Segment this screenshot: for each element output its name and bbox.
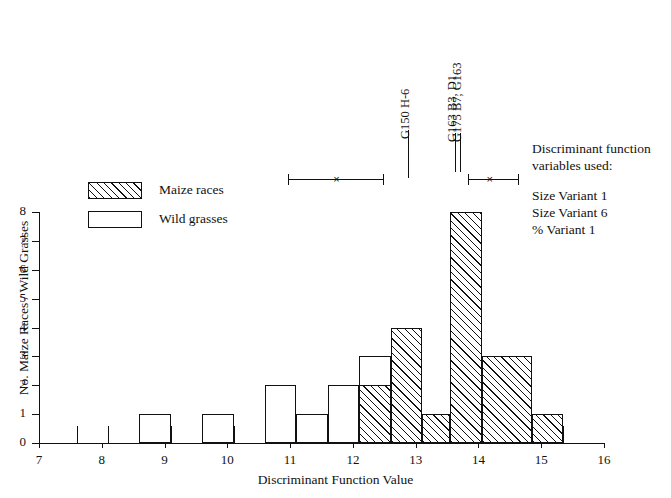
x-axis-line <box>39 443 604 444</box>
histogram-bar <box>482 356 532 443</box>
x-axis-tick <box>478 443 479 448</box>
error-bar-cap <box>518 174 519 185</box>
x-minor-tick <box>532 426 533 443</box>
note-variable-3: % Variant 1 <box>532 221 651 238</box>
legend-swatch-maize-icon <box>88 182 142 199</box>
x-axis-tick <box>416 443 417 448</box>
x-axis-tick-label: 9 <box>145 452 185 468</box>
x-minor-tick <box>171 426 172 443</box>
histogram-bar <box>422 414 450 443</box>
x-minor-tick <box>108 426 109 443</box>
error-bar-cap <box>288 174 289 185</box>
legend-item-wild: Wild grasses <box>88 209 228 229</box>
x-minor-tick <box>77 426 78 443</box>
x-minor-tick <box>328 426 329 443</box>
y-axis-tick <box>32 356 39 357</box>
x-axis-tick-label: 12 <box>333 452 373 468</box>
note-heading-line2: variables used: <box>532 157 651 174</box>
note-spacer <box>532 174 651 187</box>
y-axis-tick <box>32 212 39 213</box>
x-axis-tick-label: 7 <box>19 452 59 468</box>
y-axis-tick <box>32 270 39 271</box>
y-axis-tick <box>32 299 39 300</box>
x-axis-tick <box>227 443 228 448</box>
x-axis-tick-label: 11 <box>270 452 310 468</box>
note-heading-line1: Discriminant function <box>532 140 651 157</box>
y-axis-tick <box>32 241 39 242</box>
histogram-bar <box>265 385 296 443</box>
legend-swatch-wild-icon <box>88 211 142 228</box>
legend: Maize races Wild grasses <box>88 180 228 238</box>
x-axis-tick-label: 15 <box>521 452 561 468</box>
error-bar-mean-marker: × <box>333 174 339 185</box>
x-minor-tick <box>450 426 451 443</box>
x-axis-title: Discriminant Function Value <box>0 472 671 488</box>
x-minor-tick <box>422 426 423 443</box>
y-axis-tick-label: 0 <box>10 434 26 450</box>
legend-label-maize: Maize races <box>159 182 224 198</box>
x-axis-tick-label: 8 <box>82 452 122 468</box>
error-bar-cap <box>468 174 469 185</box>
x-axis-tick <box>353 443 354 448</box>
y-axis-tick <box>32 385 39 386</box>
y-axis-line <box>39 212 40 444</box>
plot-area: 78910111213141516012345678 G150 H-6G163 … <box>0 0 671 498</box>
marker-label: G175 B7, G163 <box>450 62 465 142</box>
histogram-bars <box>0 0 671 498</box>
histogram-bar <box>328 385 359 443</box>
y-axis-tick <box>32 443 39 444</box>
chart-root: 78910111213141516012345678 G150 H-6G163 … <box>0 0 671 498</box>
histogram-bar <box>296 414 327 443</box>
x-axis-tick-label: 16 <box>584 452 624 468</box>
x-minor-tick <box>296 426 297 443</box>
histogram-bar <box>202 414 233 443</box>
error-bar-cap <box>383 174 384 185</box>
error-bar-mean-marker: × <box>487 174 493 185</box>
x-axis-tick <box>541 443 542 448</box>
note-variable-1: Size Variant 1 <box>532 187 651 204</box>
x-minor-tick <box>202 426 203 443</box>
x-minor-tick <box>359 426 360 443</box>
x-axis-tick <box>604 443 605 448</box>
note-block: Discriminant function variables used: Si… <box>532 140 651 238</box>
x-minor-tick <box>482 426 483 443</box>
marker-label: G150 H-6 <box>398 89 413 139</box>
x-axis-tick-label: 13 <box>396 452 436 468</box>
note-variable-2: Size Variant 6 <box>532 204 651 221</box>
x-axis-tick <box>102 443 103 448</box>
legend-item-maize: Maize races <box>88 180 228 200</box>
x-axis-tick <box>39 443 40 448</box>
y-axis-tick <box>32 328 39 329</box>
histogram-bar <box>450 212 481 443</box>
x-axis-tick <box>165 443 166 448</box>
histogram-bar <box>359 385 390 443</box>
x-minor-tick <box>563 426 564 443</box>
x-minor-tick <box>265 426 266 443</box>
x-axis-tick <box>290 443 291 448</box>
x-axis-tick-label: 10 <box>207 452 247 468</box>
histogram-bar <box>391 328 422 444</box>
x-axis-tick-label: 14 <box>458 452 498 468</box>
y-axis-title: No. Maize Races / Wild Grasses <box>16 188 32 428</box>
histogram-bar <box>532 414 563 443</box>
histogram-bar <box>139 414 170 443</box>
x-minor-tick <box>139 426 140 443</box>
legend-label-wild: Wild grasses <box>159 211 228 227</box>
x-minor-tick <box>234 426 235 443</box>
x-minor-tick <box>391 426 392 443</box>
y-axis-tick <box>32 414 39 415</box>
